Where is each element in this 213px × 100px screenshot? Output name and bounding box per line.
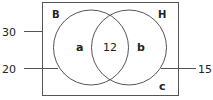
region-a-label: a bbox=[76, 41, 83, 54]
pointer-value-30: 30 bbox=[2, 26, 16, 39]
region-b-label: b bbox=[137, 41, 145, 54]
pointer-value-15: 15 bbox=[198, 63, 212, 76]
venn-diagram: 30 20 15 B H a 12 b c bbox=[0, 0, 213, 100]
region-c-label: c bbox=[159, 80, 166, 93]
pointer-value-20: 20 bbox=[2, 63, 16, 76]
set-b-label: B bbox=[52, 9, 60, 20]
set-h-label: H bbox=[158, 9, 166, 20]
intersection-value: 12 bbox=[103, 41, 117, 54]
